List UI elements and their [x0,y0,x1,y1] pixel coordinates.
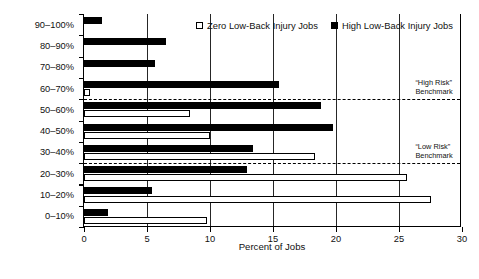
bar-high-low-back-injury-jobs [84,166,247,173]
low-risk-benchmark-label: “Low Risk” Benchmark [415,142,452,160]
y-axis-tick [79,14,84,15]
bar-zero-low-back-injury-jobs [84,174,407,181]
y-axis-tick [79,121,84,122]
bar-zero-low-back-injury-jobs [84,153,315,160]
legend-label: High Low-Back Injury Jobs [342,20,453,31]
bar-high-low-back-injury-jobs [84,17,102,24]
horizontal-bar-chart: LBD Risk Value Category 0–10%10–20%20–30… [0,0,479,279]
bar-zero-low-back-injury-jobs [84,132,210,139]
x-axis-tick [399,227,400,232]
legend-label: Zero Low-Back Injury Jobs [207,20,318,31]
y-axis-tick [79,57,84,58]
bar-high-low-back-injury-jobs [84,38,166,45]
y-tick-label: 80–90% [0,41,74,51]
bar-zero-low-back-injury-jobs [84,196,431,203]
bar-high-low-back-injury-jobs [84,81,279,88]
gridline [273,14,274,226]
high-risk-benchmark-label: “High Risk” Benchmark [415,78,452,96]
bar-high-low-back-injury-jobs [84,102,321,109]
y-tick-label: 60–70% [0,84,74,94]
open-square-marker-icon [196,22,203,29]
x-axis-tick [210,227,211,232]
y-tick-label: 40–50% [0,126,74,136]
y-axis-tick [79,206,84,207]
chart-legend: Zero Low-Back Injury Jobs High Low-Back … [196,20,453,31]
y-tick-label: 30–40% [0,147,74,157]
y-axis-tick [79,142,84,143]
legend-item-zero-low-back-injury-jobs: Zero Low-Back Injury Jobs [196,20,318,31]
y-axis-tick [79,163,84,164]
bar-high-low-back-injury-jobs [84,124,333,131]
y-tick-label: 70–80% [0,62,74,72]
x-axis-title: Percent of Jobs [83,241,461,252]
x-axis-tick [462,227,463,232]
y-tick-label: 20–30% [0,169,74,179]
gridline [399,14,400,226]
gridline [210,14,211,226]
gridline [336,14,337,226]
bar-zero-low-back-injury-jobs [84,110,190,117]
filled-square-marker-icon [331,22,338,29]
y-tick-label: 90–100% [0,20,74,30]
bar-zero-low-back-injury-jobs [84,217,207,224]
y-axis-tick [79,78,84,79]
y-axis-tick [79,35,84,36]
bar-high-low-back-injury-jobs [84,209,108,216]
bar-high-low-back-injury-jobs [84,60,155,67]
x-axis-tick [273,227,274,232]
y-tick-label: 0–10% [0,211,74,221]
x-axis-tick [84,227,85,232]
y-axis-tick [79,99,84,100]
y-tick-label: 10–20% [0,190,74,200]
legend-item-high-low-back-injury-jobs: High Low-Back Injury Jobs [331,20,453,31]
high-risk-benchmark-line [84,99,460,100]
low-risk-benchmark-line [84,163,460,164]
x-axis-tick [336,227,337,232]
bar-zero-low-back-injury-jobs [84,89,90,96]
y-axis-tick [79,184,84,185]
plot-area: “High Risk” Benchmark“Low Risk” Benchmar… [83,14,461,227]
x-axis-tick [147,227,148,232]
bar-high-low-back-injury-jobs [84,145,253,152]
bar-high-low-back-injury-jobs [84,187,152,194]
y-tick-label: 50–60% [0,105,74,115]
